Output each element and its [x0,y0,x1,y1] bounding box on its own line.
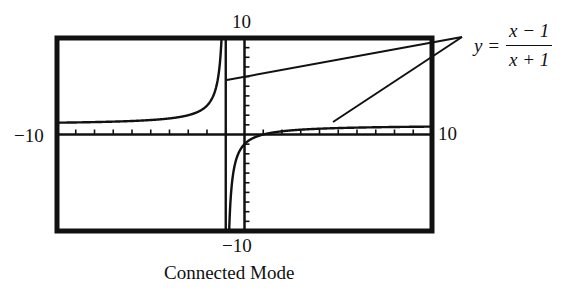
y-min-label: −10 [222,236,252,255]
x-min-label: −10 [14,126,44,145]
right-branch-curve [227,127,432,241]
denominator: x + 1 [506,49,552,71]
fraction: x − 1 x + 1 [506,20,552,71]
numerator: x − 1 [506,20,552,42]
fraction-bar [506,45,552,46]
equation-label: y = x − 1 x + 1 [474,20,552,71]
axes [57,38,432,231]
left-branch-curve [57,28,225,122]
x-max-label: 10 [438,124,457,143]
label-pointer-lines [227,37,462,122]
equation-lhs: y = [474,35,500,57]
caption: Connected Mode [164,263,294,282]
y-max-label: 10 [232,12,251,31]
pointer-to-left-branch [227,37,462,80]
